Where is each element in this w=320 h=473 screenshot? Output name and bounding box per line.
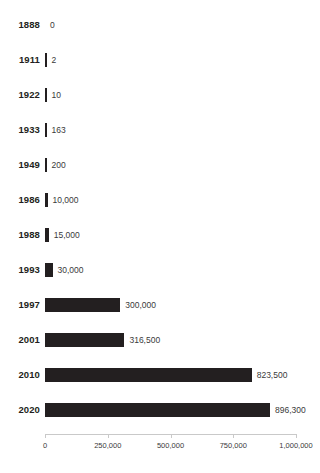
category-label: 2010 (0, 365, 40, 385)
x-axis-tick (171, 434, 172, 438)
bar-value-label: 30,000 (58, 260, 84, 280)
bar-value-label: 2 (52, 50, 57, 70)
category-label: 1997 (0, 295, 40, 315)
bar (45, 263, 53, 277)
bar-value-label: 0 (50, 15, 55, 35)
category-label: 1911 (0, 50, 40, 70)
bar (45, 333, 124, 347)
bar-row: 2001316,500 (0, 330, 320, 350)
bar-row: 199330,000 (0, 260, 320, 280)
category-label: 1986 (0, 190, 40, 210)
x-axis-tick (45, 434, 46, 438)
bar-row: 18880 (0, 15, 320, 35)
x-axis-tick-label: 500,000 (157, 440, 184, 452)
bar-value-label: 823,500 (257, 365, 288, 385)
bar-value-label: 316,500 (129, 330, 160, 350)
category-label: 1949 (0, 155, 40, 175)
bar-row: 2010823,500 (0, 365, 320, 385)
bar-row: 1949200 (0, 155, 320, 175)
bar-row: 1933163 (0, 120, 320, 140)
bar (45, 123, 47, 137)
bar-value-label: 10,000 (53, 190, 79, 210)
bar-value-label: 896,300 (275, 400, 306, 420)
category-label: 1888 (0, 15, 40, 35)
x-axis-tick-label: 1,000,000 (279, 440, 312, 452)
bar-value-label: 300,000 (125, 295, 156, 315)
bar (45, 403, 270, 417)
bar-row: 198610,000 (0, 190, 320, 210)
x-axis-tick (233, 434, 234, 438)
category-label: 1922 (0, 85, 40, 105)
bar-row: 2020896,300 (0, 400, 320, 420)
bar (45, 53, 47, 67)
x-axis-tick (108, 434, 109, 438)
bar-value-label: 10 (52, 85, 61, 105)
bar (45, 158, 47, 172)
category-label: 2020 (0, 400, 40, 420)
bar-value-label: 163 (52, 120, 66, 140)
category-label: 1933 (0, 120, 40, 140)
bar-value-label: 15,000 (54, 225, 80, 245)
category-label: 2001 (0, 330, 40, 350)
bar-chart: 188801911219221019331631949200198610,000… (0, 0, 320, 473)
bar-row: 19112 (0, 50, 320, 70)
x-axis-tick (296, 434, 297, 438)
bar (45, 298, 120, 312)
x-axis-tick-label: 250,000 (94, 440, 121, 452)
bar-row: 1997300,000 (0, 295, 320, 315)
bar-row: 198815,000 (0, 225, 320, 245)
bar-row: 192210 (0, 85, 320, 105)
bar (45, 228, 49, 242)
bar (45, 368, 252, 382)
bar (45, 88, 47, 102)
category-label: 1988 (0, 225, 40, 245)
x-axis-tick-label: 0 (43, 440, 47, 452)
x-axis-tick-label: 750,000 (220, 440, 247, 452)
bar (45, 193, 48, 207)
category-label: 1993 (0, 260, 40, 280)
bar-value-label: 200 (52, 155, 66, 175)
